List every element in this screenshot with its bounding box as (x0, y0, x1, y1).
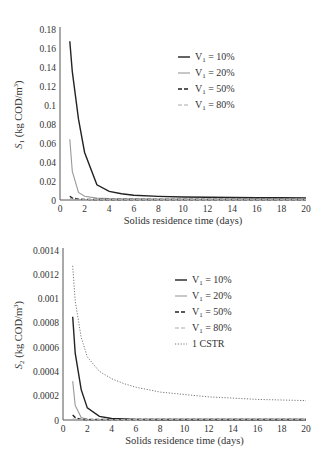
legend-label: V1 = 80% (192, 322, 232, 335)
y-tick-label: 0.18 (39, 25, 56, 35)
y-tick-label: 0.0004 (33, 367, 59, 377)
y-axis-label: S2 (kg COD/m3) (12, 300, 26, 369)
x-tick-label: 18 (277, 424, 287, 434)
x-tick-label: 14 (227, 204, 237, 214)
x-tick-label: 20 (301, 204, 311, 214)
x-tick-label: 16 (253, 424, 263, 434)
legend-label: V1 = 50% (192, 306, 232, 319)
series-line (70, 139, 306, 199)
x-tick-label: 12 (204, 424, 214, 434)
x-tick-label: 18 (277, 204, 287, 214)
chart-s1: 00.020.040.060.080.10.120.140.160.180246… (12, 25, 311, 228)
y-tick-label: 0.0008 (33, 318, 59, 328)
y-tick-label: 0 (51, 196, 56, 206)
y-tick-label: 0.16 (39, 44, 56, 54)
x-tick-label: 2 (85, 424, 90, 434)
y-tick-label: 0.06 (39, 139, 56, 149)
x-tick-label: 6 (131, 204, 136, 214)
y-axis-label: S1 (kg COD/m3) (12, 80, 26, 149)
x-tick-label: 2 (82, 204, 87, 214)
x-tick-label: 0 (61, 424, 66, 434)
x-axis-label: Solids residence time (days) (125, 435, 244, 447)
series-line (73, 381, 306, 419)
legend-label: V1 = 80% (195, 99, 235, 112)
y-tick-label: 0.04 (39, 158, 56, 168)
y-tick-label: 0.0014 (33, 246, 59, 256)
series-line (70, 41, 306, 198)
y-tick-label: 0.001 (38, 294, 60, 304)
x-tick-label: 0 (58, 204, 63, 214)
figure: 00.020.040.060.080.10.120.140.160.180246… (0, 0, 326, 472)
x-tick-label: 20 (301, 424, 311, 434)
x-tick-label: 10 (178, 204, 188, 214)
x-tick-label: 10 (180, 424, 190, 434)
legend-label: V1 = 20% (192, 290, 232, 303)
y-tick-label: 0.0012 (33, 270, 59, 280)
series-line (73, 317, 306, 420)
chart-s2: 00.00020.00040.00060.00080.0010.00120.00… (12, 246, 311, 448)
y-tick-label: 0.12 (39, 82, 56, 92)
x-tick-label: 16 (252, 204, 262, 214)
y-tick-label: 0.1 (44, 101, 56, 111)
y-tick-label: 0.0002 (33, 391, 59, 401)
x-tick-label: 4 (109, 424, 114, 434)
x-tick-label: 14 (228, 424, 238, 434)
x-tick-label: 6 (134, 424, 139, 434)
legend-label: V1 = 10% (195, 51, 235, 64)
y-tick-label: 0.0006 (33, 343, 59, 353)
series-line (73, 266, 306, 401)
x-tick-label: 8 (156, 204, 161, 214)
legend-label: V1 = 20% (195, 67, 235, 80)
y-tick-label: 0.14 (39, 63, 56, 73)
y-tick-label: 0.08 (39, 120, 56, 130)
x-tick-label: 4 (107, 204, 112, 214)
x-tick-label: 12 (203, 204, 213, 214)
legend-label: 1 CSTR (192, 338, 225, 349)
x-axis-label: Solids residence time (days) (124, 215, 243, 227)
y-tick-label: 0.02 (39, 177, 56, 187)
x-tick-label: 8 (158, 424, 163, 434)
y-tick-label: 0 (54, 416, 59, 426)
legend-label: V1 = 50% (195, 83, 235, 96)
legend-label: V1 = 10% (192, 274, 232, 287)
